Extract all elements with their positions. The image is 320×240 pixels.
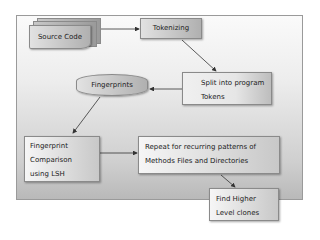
node-tokenizing-label: Tokenizing	[153, 24, 189, 32]
node-fingerprint-comparison: Fingerprint Comparison using LSH	[24, 136, 100, 182]
node-find-higher-level-clones: Find Higher Level clones	[209, 188, 279, 221]
node-repeat-patterns: Repeat for recurring patterns of Methods…	[138, 136, 280, 174]
edge-tokenizing-to-split	[182, 40, 216, 71]
node-fingerprints-cylinder: Fingerprints	[76, 74, 148, 96]
node-repeat-line-2: Methods Files and Directories	[145, 154, 279, 168]
node-repeat-line-1: Repeat for recurring patterns of	[145, 140, 279, 154]
node-split-tokens: Split into program Tokens	[182, 72, 272, 105]
edge-fingerprints-to-comparison	[73, 97, 100, 133]
node-fingerprints-label: Fingerprints	[91, 81, 133, 89]
node-comparison-line-3: using LSH	[30, 167, 99, 181]
node-find-line-1: Find Higher	[216, 192, 278, 206]
node-comparison-line-1: Fingerprint	[30, 139, 99, 153]
node-tokenizing: Tokenizing	[140, 18, 202, 39]
node-source-code: Source Code	[29, 25, 91, 49]
node-source-code-label: Source Code	[38, 33, 82, 41]
node-find-line-2: Level clones	[216, 206, 278, 220]
edge-repeat-to-find	[221, 175, 235, 187]
node-split-line-2: Tokens	[201, 90, 271, 104]
node-comparison-line-2: Comparison	[30, 153, 99, 167]
node-split-line-1: Split into program	[201, 76, 271, 90]
